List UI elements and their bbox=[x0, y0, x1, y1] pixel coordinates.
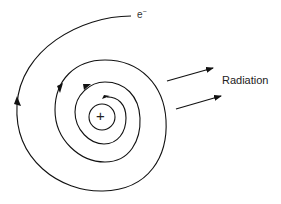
radiation-label: Radiation bbox=[222, 74, 268, 86]
nucleus-plus-sign: + bbox=[96, 107, 105, 124]
radiation-arrow-icon bbox=[176, 96, 221, 109]
electron-spiral-path bbox=[17, 16, 166, 191]
electron-label: e− bbox=[137, 8, 147, 20]
electron-charge: − bbox=[143, 8, 147, 15]
spiral-diagram bbox=[0, 0, 281, 204]
radiation-arrow-icon bbox=[167, 68, 213, 81]
arrowhead-icon bbox=[14, 96, 21, 106]
